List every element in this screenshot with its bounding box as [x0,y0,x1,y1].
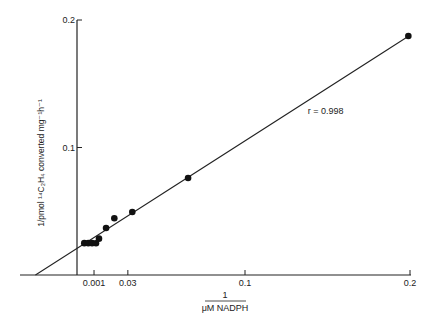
x-tick-label: 0.1 [239,278,252,288]
x-ticks: 0.0010.030.10.2 [83,270,416,288]
data-point [103,225,110,232]
y-tick-label: 0.2 [62,15,75,25]
x-axis-label: 1 μM NADPH [202,290,249,313]
data-point [129,209,136,216]
chart: 0.0010.030.10.2 0.10.2 r = 0.998 1 μM NA… [0,0,435,321]
regression-line [35,35,410,275]
x-tick-label: 0.03 [119,278,137,288]
data-point [185,175,192,182]
y-tick-label: 0.1 [62,143,75,153]
y-ticks: 0.10.2 [62,15,82,153]
data-point [96,235,103,242]
x-tick-label: 0.2 [404,278,417,288]
x-tick-label: 0.001 [83,278,106,288]
data-point [405,33,412,40]
x-axis-label-numerator: 1 [222,290,227,300]
data-point [111,215,118,222]
x-axis-label-denominator: μM NADPH [202,303,249,313]
correlation-annotation: r = 0.998 [308,106,344,116]
y-axis-label: 1/pmol ¹⁴C₂H₄ converted mg⁻¹h⁻¹ [36,99,46,227]
